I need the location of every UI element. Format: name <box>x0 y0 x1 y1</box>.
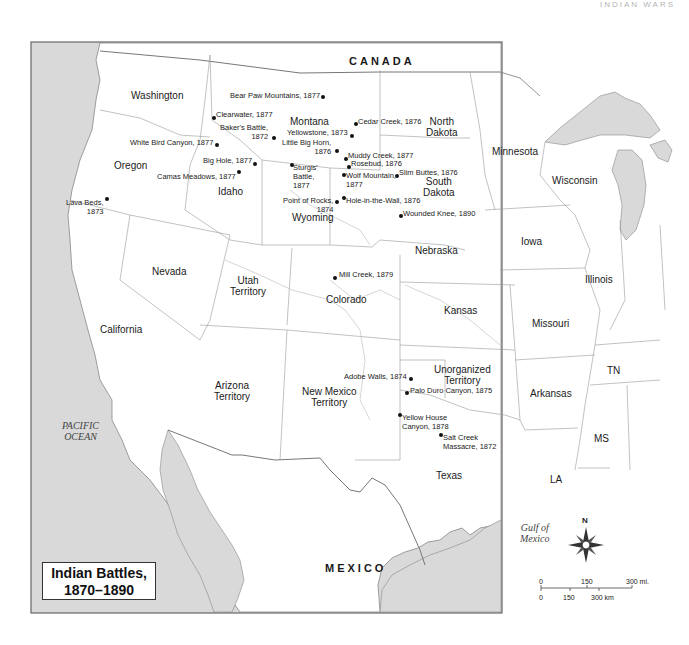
battle-marker[interactable] <box>335 200 339 204</box>
label-oregon: Oregon <box>114 160 147 171</box>
compass-rose-icon <box>568 527 604 563</box>
label-arizona: Arizona Territory <box>214 380 250 402</box>
label-iowa: Iowa <box>521 236 542 247</box>
label-utah: Utah Territory <box>230 275 266 297</box>
battle-label: Clearwater, 1877 <box>216 110 273 119</box>
battle-label: Mill Creek, 1879 <box>339 270 393 279</box>
battle-marker[interactable] <box>237 170 241 174</box>
lake-michigan <box>612 150 646 240</box>
label-canada: CANADA <box>349 56 415 67</box>
label-texas: Texas <box>436 470 462 481</box>
map-title: Indian Battles, 1870–1890 <box>42 562 156 600</box>
battle-marker[interactable] <box>350 134 354 138</box>
label-colorado: Colorado <box>326 294 367 305</box>
battle-label: Baker's Battle, 1872 <box>220 123 268 141</box>
battle-label: Yellowstone, 1873 <box>287 128 348 137</box>
battle-label: Big Hole, 1877 <box>203 156 252 165</box>
label-unorganized-territory: Unorganized Territory <box>434 364 491 386</box>
label-kansas: Kansas <box>444 305 477 316</box>
battle-label: Adobe Walls, 1874 <box>344 372 407 381</box>
battle-label: Yellow House Canyon, 1878 <box>402 413 449 431</box>
label-pacific-ocean: PACIFIC OCEAN <box>62 420 99 442</box>
scale-bar <box>541 585 632 591</box>
scale-km-150: 150 <box>563 594 575 601</box>
battle-label: Bear Paw Mountains, 1877 <box>230 91 320 100</box>
scale-mi-0: 0 <box>539 578 543 585</box>
label-california: California <box>100 324 142 335</box>
label-tn: TN <box>607 365 620 376</box>
map-canvas <box>0 0 689 645</box>
label-la: LA <box>550 474 562 485</box>
label-nevada: Nevada <box>152 266 186 277</box>
battle-label: Camas Meadows, 1877 <box>157 172 236 181</box>
battle-marker[interactable] <box>409 377 413 381</box>
label-illinois: Illinois <box>585 274 613 285</box>
battle-label: Wolf Mountain, 1877 <box>346 171 396 189</box>
scale-km-0: 0 <box>539 594 543 601</box>
compass-north-label: N <box>582 516 588 525</box>
battle-label: Rosebud, 1876 <box>351 159 402 168</box>
battle-label: Wounded Knee, 1890 <box>403 209 475 218</box>
lake-huron <box>650 140 672 162</box>
battle-marker[interactable] <box>215 143 219 147</box>
label-north-dakota: North Dakota <box>426 116 458 138</box>
scale-mi-150: 150 <box>581 578 593 585</box>
battle-label: Salt Creek Massacre, 1872 <box>443 433 496 451</box>
battle-label: Palo Duro Canyon, 1875 <box>410 386 492 395</box>
scale-mi-300: 300 mi. <box>626 578 649 585</box>
lake-superior <box>545 92 660 145</box>
label-washington: Washington <box>131 90 183 101</box>
battle-marker[interactable] <box>253 162 257 166</box>
battle-label: Little Big Horn, 1876 <box>282 138 331 156</box>
battle-marker[interactable] <box>321 95 325 99</box>
label-wisconsin: Wisconsin <box>552 175 598 186</box>
label-south-dakota: South Dakota <box>423 176 455 198</box>
battle-marker[interactable] <box>405 391 409 395</box>
label-ms: MS <box>594 433 609 444</box>
battle-marker[interactable] <box>105 197 109 201</box>
label-nebraska: Nebraska <box>415 245 458 256</box>
battle-label: Sturgis' Battle, 1877 <box>293 163 318 190</box>
label-mexico: MEXICO <box>325 563 386 574</box>
battle-label: White Bird Canyon, 1877 <box>130 138 213 147</box>
battle-label: Lava Beds, 1873 <box>66 198 104 216</box>
label-missouri: Missouri <box>532 318 569 329</box>
label-montana: Montana <box>290 116 329 127</box>
battle-label: Cedar Creek, 1876 <box>358 117 421 126</box>
battle-label: Point of Rocks, 1874 <box>283 196 333 214</box>
battle-marker[interactable] <box>333 276 337 280</box>
battle-marker[interactable] <box>272 136 276 140</box>
battle-marker[interactable] <box>335 149 339 153</box>
scale-km-300: 300 km <box>591 594 614 601</box>
label-minnesota: Minnesota <box>492 146 538 157</box>
label-arkansas: Arkansas <box>530 388 572 399</box>
label-idaho: Idaho <box>218 186 243 197</box>
label-gulf-of-mexico: Gulf of Mexico <box>520 522 549 544</box>
battle-label: Slim Buttes, 1876 <box>399 168 458 177</box>
label-new-mexico: New Mexico Territory <box>302 386 356 408</box>
battle-label: Hole-in-the-Wall, 1876 <box>346 196 420 205</box>
